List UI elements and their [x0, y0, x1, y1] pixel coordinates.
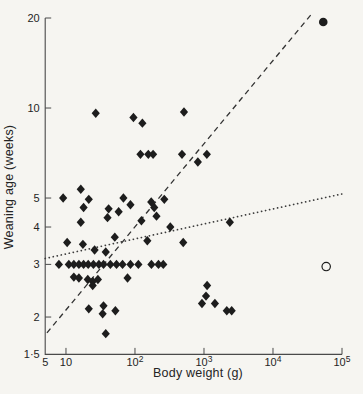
y-tick-label: 2 [34, 311, 40, 323]
data-point-diamond [137, 216, 145, 225]
data-point-diamond [203, 150, 211, 159]
data-point-diamond [99, 309, 107, 318]
data-point-diamond [111, 306, 119, 315]
data-point-diamond [160, 195, 168, 204]
x-tick-label: 10 [60, 356, 72, 368]
data-point-diamond [126, 260, 134, 269]
data-point-diamond [143, 236, 151, 245]
x-tick-label: 102 [126, 354, 143, 369]
data-point-diamond [179, 238, 187, 247]
x-tick-label: 5 [42, 356, 48, 368]
data-point-diamond [180, 107, 188, 116]
data-point-diamond [85, 304, 93, 313]
data-point-diamond [63, 238, 71, 247]
data-point-diamond [126, 200, 134, 209]
data-point-diamond [198, 299, 206, 308]
data-point-diamond [138, 118, 146, 127]
data-point-diamond [59, 193, 67, 202]
data-point-diamond [99, 301, 107, 310]
data-point-diamond [134, 260, 142, 269]
figure-page: 201054321·5510102103104105 Weaning age (… [0, 0, 363, 394]
data-point-diamond [118, 260, 126, 269]
data-point-diamond [111, 232, 119, 241]
data-point-diamond [159, 260, 167, 269]
y-tick-label: 1·5 [24, 348, 40, 360]
data-point-diamond [211, 299, 219, 308]
y-tick-label: 10 [27, 102, 39, 114]
data-point-diamond [123, 273, 131, 282]
data-point-diamond [79, 240, 87, 249]
plot-generated-content: 201054321·5510102103104105 [24, 12, 351, 368]
y-tick-label: 4 [34, 221, 40, 233]
weaning-age-scatter-plot: 201054321·5510102103104105 Weaning age (… [0, 0, 363, 394]
axes-frame [45, 18, 342, 354]
data-point-diamond [102, 329, 110, 338]
y-axis-title: Weaning age (weeks) [2, 125, 16, 249]
x-tick-label: 105 [334, 354, 351, 369]
data-point-diamond [203, 281, 211, 290]
y-tick-label: 5 [34, 192, 40, 204]
data-point-diamond [228, 306, 236, 315]
data-point-diamond [194, 157, 202, 166]
dotted-regression-line [45, 194, 342, 259]
data-point-diamond [92, 109, 100, 118]
data-point-diamond [77, 185, 85, 194]
data-point-diamond [136, 150, 144, 159]
data-point-diamond [178, 150, 186, 159]
data-point-filled-circle [319, 18, 328, 27]
data-point-diamond [149, 150, 157, 159]
data-point-diamond [102, 247, 110, 256]
data-point-diamond [75, 273, 83, 282]
data-point-diamond [77, 218, 85, 227]
y-tick-label: 3 [34, 258, 40, 270]
data-point-diamond [152, 211, 160, 220]
data-point-diamond [147, 260, 155, 269]
y-tick-label: 20 [27, 12, 39, 24]
data-point-diamond [55, 260, 63, 269]
dashed-regression-line [47, 15, 311, 333]
data-point-diamond [105, 204, 113, 213]
data-point-diamond [129, 113, 137, 122]
data-point-open-circle [322, 262, 330, 270]
data-point-diamond [115, 207, 123, 216]
data-point-diamond [103, 213, 111, 222]
data-point-diamond [119, 193, 127, 202]
data-point-diamond [85, 195, 93, 204]
x-tick-label: 104 [265, 354, 282, 369]
data-point-diamond [202, 291, 210, 300]
x-axis-title: Body weight (g) [153, 366, 243, 380]
data-point-diamond [79, 203, 87, 212]
data-point-diamond [226, 218, 234, 227]
